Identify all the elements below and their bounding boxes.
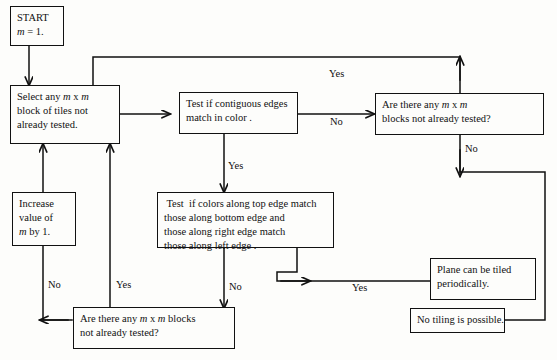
edge-label-no-any-blocks-top: No xyxy=(465,143,478,154)
any-blocks-top-line-1: Are there any m x m xyxy=(382,98,537,112)
edge-label-no-increase: No xyxy=(48,279,61,290)
plane-tiled-line-1: Plane can be tiled xyxy=(437,263,529,277)
edge-label-yes-top-loop: Yes xyxy=(329,68,344,79)
plane-tiled-node[interactable]: Plane can be tiled periodically. xyxy=(430,258,536,300)
test-colors-line-1: Test if colors along top edge match xyxy=(164,197,327,211)
any-blocks-bottom-line-1: Are there any m x m blocks xyxy=(80,312,228,326)
start-line-1: START xyxy=(17,11,57,25)
increase-m-node[interactable]: Increase value of m by 1. xyxy=(12,192,76,246)
any-blocks-bottom-node[interactable]: Are there any m x m blocks not already t… xyxy=(73,307,235,349)
any-blocks-top-node[interactable]: Are there any m x m blocks not already t… xyxy=(375,93,544,135)
increase-m-line-1: Increase xyxy=(19,197,69,211)
any-blocks-top-line-2: blocks not already tested? xyxy=(382,112,537,126)
edge-label-yes-contiguous: Yes xyxy=(228,160,243,171)
edge-label-yes-colors: Yes xyxy=(352,282,367,293)
test-colors-line-2: those along bottom edge and xyxy=(164,211,327,225)
start-line-2: m = 1. xyxy=(17,25,57,39)
no-tiling-line-1: No tiling is possible. xyxy=(417,313,498,327)
test-contiguous-edges-node[interactable]: Test if contiguous edges match in color … xyxy=(179,92,298,134)
plane-tiled-line-2: periodically. xyxy=(437,277,529,291)
select-block-line-3: already tested. xyxy=(17,118,113,132)
increase-m-line-3: m by 1. xyxy=(19,225,69,239)
select-block-node[interactable]: Select any m x m block of tiles not alre… xyxy=(10,85,120,144)
increase-m-line-2: value of xyxy=(19,211,69,225)
edge-label-yes-bottom-loop: Yes xyxy=(116,279,131,290)
connector-testcolors-yes-line xyxy=(277,248,430,281)
select-block-line-1: Select any m x m xyxy=(17,90,113,104)
select-block-line-2: block of tiles not xyxy=(17,104,113,118)
edge-label-no-colors: No xyxy=(229,281,242,292)
test-contiguous-line-1: Test if contiguous edges xyxy=(186,97,291,111)
any-blocks-bottom-line-2: not already tested? xyxy=(80,326,228,340)
start-node[interactable]: START m = 1. xyxy=(10,6,64,46)
test-colors-line-3: those along right edge match xyxy=(164,225,327,239)
no-tiling-node[interactable]: No tiling is possible. xyxy=(410,308,505,333)
test-colors-edges-node[interactable]: Test if colors along top edge match thos… xyxy=(157,192,334,248)
test-contiguous-line-2: match in color . xyxy=(186,111,291,125)
flowchart-connectors xyxy=(0,0,557,360)
edge-label-no-contiguous: No xyxy=(330,116,343,127)
flowchart-canvas: START m = 1. Select any m x m block of t… xyxy=(0,0,557,360)
test-colors-line-4: those along left edge . xyxy=(164,239,327,253)
connector-anyblocks-yes-loop-line xyxy=(93,57,460,93)
